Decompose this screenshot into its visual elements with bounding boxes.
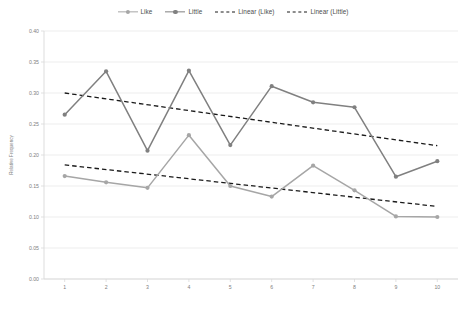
x-axis-ticks: 12345678910 [63,279,440,290]
data-point-little [63,113,67,117]
x-tick-label: 4 [187,284,190,290]
data-point-like [270,194,274,198]
y-tick-label: 0.30 [29,90,39,96]
y-axis-title: Relative Frequency [9,135,14,175]
data-point-little [145,149,149,153]
y-tick-label: 0.15 [29,183,39,189]
x-tick-label: 10 [434,284,440,290]
data-point-like [435,215,439,219]
data-point-like [311,163,315,167]
x-tick-label: 3 [146,284,149,290]
y-tick-label: 0.00 [29,276,39,282]
trendline-linear-little [65,93,438,146]
gridlines [44,31,458,279]
y-tick-label: 0.35 [29,59,39,65]
x-tick-label: 9 [394,284,397,290]
data-point-like [394,214,398,218]
chart-svg: 0.000.050.100.150.200.250.300.350.40 123… [0,0,466,310]
trendlines [65,93,438,206]
x-tick-label: 2 [105,284,108,290]
x-tick-label: 1 [63,284,66,290]
y-tick-label: 0.40 [29,28,39,34]
x-tick-label: 5 [229,284,232,290]
y-tick-label: 0.20 [29,152,39,158]
data-point-like [63,174,67,178]
data-point-like [145,186,149,190]
data-point-like [352,188,356,192]
x-tick-label: 6 [270,284,273,290]
data-point-like [228,184,232,188]
series-line-like [65,135,438,217]
data-series [63,69,440,220]
y-axis-title-group: Relative Frequency [9,135,14,175]
data-point-little [435,159,439,163]
y-axis-ticks: 0.000.050.100.150.200.250.300.350.40 [29,28,44,282]
x-tick-label: 7 [312,284,315,290]
data-point-little [104,69,108,73]
data-point-like [187,133,191,137]
chart-figure: Like Little Linear (Like) Linear (Little… [0,0,466,310]
data-point-little [311,100,315,104]
data-point-like [104,180,108,184]
data-point-little [228,143,232,147]
data-point-little [270,84,274,88]
plot-area: 0.000.050.100.150.200.250.300.350.40 123… [0,0,466,310]
y-tick-label: 0.05 [29,245,39,251]
data-point-little [352,105,356,109]
data-point-little [394,175,398,179]
y-tick-label: 0.25 [29,121,39,127]
y-tick-label: 0.10 [29,214,39,220]
data-point-little [187,69,191,73]
x-tick-label: 8 [353,284,356,290]
